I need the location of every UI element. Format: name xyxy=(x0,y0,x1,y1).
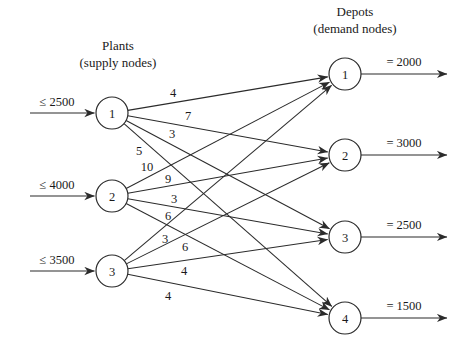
edge-cost-label: 7 xyxy=(185,109,191,123)
edge-cost-label: 5 xyxy=(136,144,142,158)
demand-node-label-3: 3 xyxy=(342,231,348,245)
edge-plant-1-to-depot-1 xyxy=(128,77,328,110)
network-canvas: 1231234 4735109363644≤ 2500≤ 4000≤ 3500=… xyxy=(0,0,453,340)
supply-capacity-label-2: ≤ 4000 xyxy=(40,178,75,192)
edge-plant-3-to-depot-4 xyxy=(128,274,328,314)
demand-node-label-1: 1 xyxy=(342,68,348,82)
demand-value-label-3: = 2500 xyxy=(386,218,421,232)
nodes-layer: 1231234 xyxy=(96,58,361,334)
edge-cost-label: 3 xyxy=(171,192,177,206)
edge-plant-3-to-depot-2 xyxy=(126,163,329,264)
edges-layer xyxy=(124,77,332,315)
edge-plant-1-to-depot-2 xyxy=(128,116,328,152)
edge-cost-label: 4 xyxy=(181,264,188,278)
edge-cost-label: 9 xyxy=(165,172,171,186)
depots-header-line1: Depots xyxy=(337,4,374,19)
demand-node-label-2: 2 xyxy=(342,149,348,163)
io-arrows-layer xyxy=(30,74,447,318)
supply-capacity-label-3: ≤ 3500 xyxy=(40,253,75,267)
supply-node-label-1: 1 xyxy=(109,107,115,121)
edge-cost-label: 4 xyxy=(170,86,177,100)
edge-cost-label: 6 xyxy=(182,240,188,254)
edge-cost-label: 4 xyxy=(165,289,172,303)
supply-node-label-3: 3 xyxy=(109,265,115,279)
edge-cost-label: 10 xyxy=(141,160,154,174)
plants-header-line2: (supply nodes) xyxy=(80,55,157,70)
edge-plant-1-to-depot-4 xyxy=(124,124,332,307)
plants-header-line1: Plants xyxy=(102,38,134,53)
demand-value-label-1: = 2000 xyxy=(386,55,421,69)
network-diagram: 1231234 4735109363644≤ 2500≤ 4000≤ 3500=… xyxy=(0,0,453,340)
edge-cost-label: 6 xyxy=(165,209,171,223)
edge-cost-label: 3 xyxy=(162,232,168,246)
demand-node-label-4: 4 xyxy=(342,312,349,326)
edge-plant-1-to-depot-3 xyxy=(126,121,329,229)
edge-plant-2-to-depot-3 xyxy=(128,199,328,234)
edge-cost-label: 3 xyxy=(169,127,175,141)
supply-capacity-label-1: ≤ 2500 xyxy=(40,95,75,109)
depots-header-line2: (demand nodes) xyxy=(313,21,396,36)
demand-value-label-4: = 1500 xyxy=(386,299,421,313)
edge-plant-2-to-depot-2 xyxy=(128,158,328,193)
edge-plant-3-to-depot-3 xyxy=(128,240,328,269)
demand-value-label-2: = 3000 xyxy=(386,136,421,150)
supply-node-label-2: 2 xyxy=(109,190,115,204)
